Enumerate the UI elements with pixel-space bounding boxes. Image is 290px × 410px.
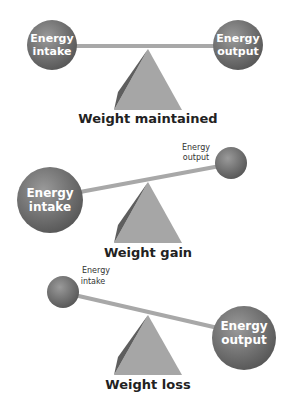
panel-weight-maintained: Energy intake Energy output Weight maint… (27, 20, 263, 126)
output-label-line2: output (183, 153, 209, 162)
caption-weight-gain: Weight gain (104, 245, 192, 260)
output-label-line1: Energy (182, 143, 210, 152)
pyramid-fulcrum (114, 49, 182, 110)
pyramid-fulcrum (114, 182, 182, 243)
caption-weight-maintained: Weight maintained (78, 111, 217, 126)
intake-label-line1: Energy (26, 186, 73, 200)
energy-output-ball (215, 147, 247, 179)
intake-label-line2: intake (81, 277, 106, 286)
intake-label-line2: intake (33, 45, 72, 58)
output-label-line2: output (217, 45, 259, 58)
output-label-line1: Energy (216, 32, 259, 45)
intake-label-line1: Energy (82, 266, 110, 275)
panel-weight-gain: Energy intake Energy output Weight gain (17, 143, 247, 260)
intake-label-line2: intake (29, 200, 71, 214)
pyramid-fulcrum (114, 315, 182, 375)
output-label-line2: output (221, 333, 267, 347)
panel-weight-loss: Energy intake Energy output Weight loss (47, 266, 276, 392)
energy-intake-ball (47, 276, 79, 308)
energy-balance-diagram: Energy intake Energy output Weight maint… (0, 0, 290, 410)
output-label-line1: Energy (220, 319, 267, 333)
intake-label-line1: Energy (30, 32, 73, 45)
caption-weight-loss: Weight loss (105, 377, 191, 392)
